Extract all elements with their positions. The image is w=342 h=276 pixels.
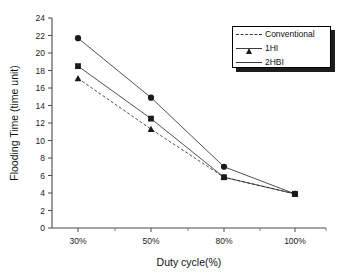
y-tick-label: 18 bbox=[36, 66, 46, 76]
data-point-1hi bbox=[148, 116, 154, 122]
square-marker-icon bbox=[236, 43, 262, 54]
x-tick-label: 50% bbox=[142, 236, 159, 246]
triangle-marker-icon bbox=[236, 29, 262, 40]
y-tick-label: 24 bbox=[36, 13, 46, 23]
x-tick-label: 80% bbox=[215, 236, 232, 246]
data-point-conventional bbox=[75, 75, 82, 81]
y-tick-label: 2 bbox=[40, 206, 45, 216]
data-point-2hbi bbox=[148, 95, 154, 101]
y-tick-label: 14 bbox=[36, 101, 46, 111]
circle-marker-icon bbox=[236, 57, 262, 68]
y-tick-label: 16 bbox=[36, 83, 46, 93]
data-point-2hbi bbox=[75, 35, 81, 41]
x-axis-title: Duty cycle(%) bbox=[157, 256, 222, 268]
y-axis-tick-labels: 024681012141618202224 bbox=[36, 13, 46, 233]
data-point-1hi bbox=[221, 174, 227, 180]
legend-label-2hbi: 2HBI bbox=[265, 57, 284, 68]
legend-item-conventional: Conventional bbox=[236, 28, 330, 41]
x-tick-label: 100% bbox=[284, 236, 306, 246]
y-tick-label: 0 bbox=[40, 223, 45, 233]
y-tick-label: 20 bbox=[36, 48, 46, 58]
legend-item-1hi: 1HI bbox=[236, 42, 330, 55]
y-axis-title: Flooding Time (time unit) bbox=[8, 65, 20, 181]
y-tick-label: 12 bbox=[36, 118, 46, 128]
data-point-2hbi bbox=[221, 164, 227, 170]
y-tick-label: 22 bbox=[36, 31, 46, 41]
series-line-1hi bbox=[78, 66, 295, 194]
y-tick-label: 8 bbox=[40, 153, 45, 163]
legend-item-2hbi: 2HBI bbox=[236, 56, 330, 69]
data-point-1hi bbox=[75, 63, 81, 69]
data-point-2hbi bbox=[292, 191, 298, 197]
legend-label-1hi: 1HI bbox=[265, 43, 278, 54]
series-line-conventional bbox=[78, 78, 295, 194]
x-axis-tick-labels: 30%50%80%100% bbox=[69, 236, 306, 246]
y-axis-ticks bbox=[48, 18, 52, 228]
legend-label-conventional: Conventional bbox=[265, 29, 315, 40]
y-tick-label: 10 bbox=[36, 136, 46, 146]
chart-legend: Conventional 1HI 2HBI bbox=[232, 26, 331, 68]
x-tick-label: 30% bbox=[69, 236, 86, 246]
y-tick-label: 6 bbox=[40, 171, 45, 181]
data-point-conventional bbox=[148, 126, 155, 132]
x-axis-ticks bbox=[78, 228, 326, 232]
chart-container: 024681012141618202224 30%50%80%100% Duty… bbox=[0, 0, 342, 276]
y-tick-label: 4 bbox=[40, 188, 45, 198]
